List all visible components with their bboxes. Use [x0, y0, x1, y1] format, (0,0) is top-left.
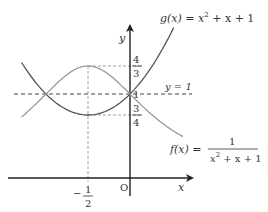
function-graph: y x O 4 3 1 3 4 − 1 2 y = 1 g(x) = x2 + …: [0, 0, 268, 212]
tick-minus-half-num: 1: [85, 184, 91, 195]
y-axis-label: y: [118, 32, 126, 45]
tick-minus-half-den: 2: [85, 198, 91, 209]
tick-minus-half-sign: −: [73, 188, 81, 199]
f-curve: [22, 66, 183, 137]
tick-4-3-num: 4: [133, 54, 139, 65]
f-label-den: x2 + x + 1: [210, 151, 262, 164]
tick-4-3-den: 3: [133, 68, 139, 79]
origin-label: O: [120, 182, 128, 193]
tick-3-4-num: 3: [133, 103, 139, 114]
tick-1: 1: [133, 89, 139, 100]
g-curve: [22, 28, 174, 115]
f-label-num: 1: [229, 136, 235, 147]
y-equals-1-label: y = 1: [164, 81, 192, 92]
x-axis-label: x: [178, 181, 185, 194]
f-label-lhs: f(x) =: [169, 143, 202, 156]
tick-3-4-den: 4: [133, 117, 139, 128]
g-label: g(x) = x2 + x + 1: [160, 11, 254, 25]
